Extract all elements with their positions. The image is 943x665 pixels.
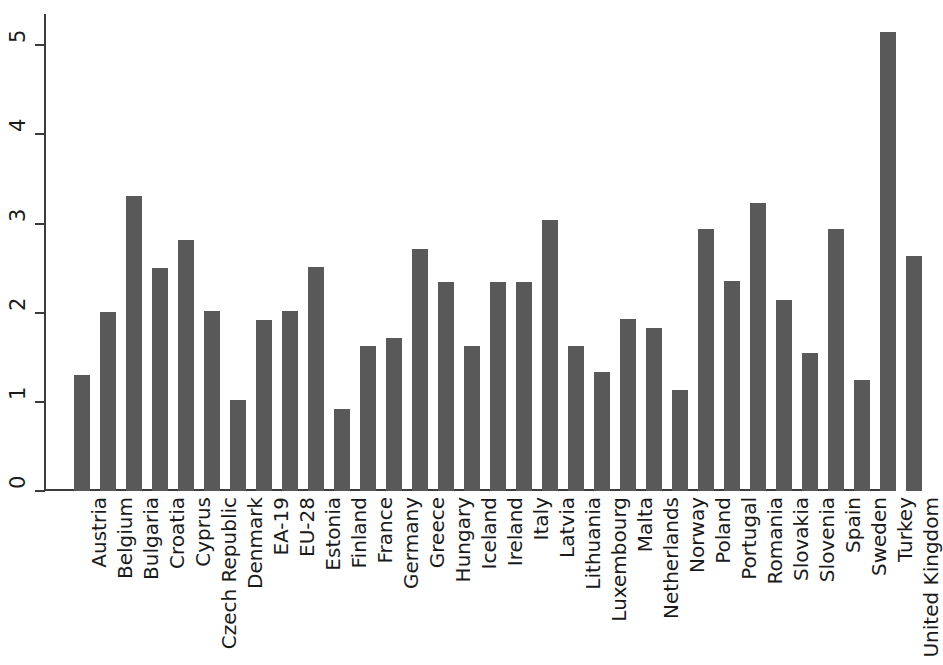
x-axis-label-slot: Portugal bbox=[719, 493, 745, 665]
y-axis-tick-label: 4 bbox=[8, 119, 29, 149]
x-axis-label-slot: Slovakia bbox=[771, 493, 797, 665]
x-axis-label-slot: Lithuania bbox=[563, 493, 589, 665]
y-axis-tick-label: 1 bbox=[8, 386, 29, 416]
bar-slot bbox=[823, 14, 849, 491]
x-axis-label-slot: Germany bbox=[381, 493, 407, 665]
bar bbox=[230, 400, 246, 491]
bar-slot bbox=[719, 14, 745, 491]
y-axis-tick-label: 0 bbox=[8, 476, 29, 506]
bar-slot bbox=[95, 14, 121, 491]
bar bbox=[438, 282, 454, 491]
bar bbox=[516, 282, 532, 491]
x-axis-label-slot: Estonia bbox=[303, 493, 329, 665]
bar bbox=[360, 346, 376, 491]
x-axis-label-slot: Czech Republic bbox=[199, 493, 225, 665]
bar-slot bbox=[745, 14, 771, 491]
y-axis-tick-label-wrap: 3 bbox=[0, 213, 33, 234]
bar-slot bbox=[901, 14, 927, 491]
bar-slot bbox=[667, 14, 693, 491]
bar bbox=[74, 375, 90, 491]
x-axis-label-slot: Italy bbox=[511, 493, 537, 665]
bar bbox=[672, 390, 688, 491]
bar-slot bbox=[173, 14, 199, 491]
y-axis-tick-label-wrap: 2 bbox=[0, 302, 33, 323]
x-axis-label-slot: Belgium bbox=[95, 493, 121, 665]
y-axis-tick-label-wrap: 5 bbox=[0, 34, 33, 55]
x-axis-label-slot: Latvia bbox=[537, 493, 563, 665]
bar bbox=[880, 32, 896, 491]
y-axis-tick-label: 5 bbox=[8, 30, 29, 60]
bar-slot bbox=[589, 14, 615, 491]
bar-slot bbox=[199, 14, 225, 491]
y-axis-tick-label-wrap: 1 bbox=[0, 391, 33, 412]
x-axis-label-slot: France bbox=[355, 493, 381, 665]
bar bbox=[464, 346, 480, 491]
bar-slot bbox=[355, 14, 381, 491]
bar-slot bbox=[615, 14, 641, 491]
x-axis-label-slot: EU-28 bbox=[277, 493, 303, 665]
y-axis-tick-label-wrap: 4 bbox=[0, 123, 33, 144]
x-axis-label-slot: Bulgaria bbox=[121, 493, 147, 665]
bar bbox=[828, 229, 844, 491]
bar bbox=[620, 319, 636, 491]
y-axis-tick-label-wrap: 0 bbox=[0, 480, 33, 501]
x-axis-label-slot: Netherlands bbox=[641, 493, 667, 665]
bar bbox=[750, 203, 766, 491]
bar-slot bbox=[875, 14, 901, 491]
x-axis-label-slot: Greece bbox=[407, 493, 433, 665]
bar bbox=[776, 300, 792, 491]
bar bbox=[594, 372, 610, 491]
bar-slot bbox=[407, 14, 433, 491]
bar-slot bbox=[459, 14, 485, 491]
x-axis-label-slot: Slovenia bbox=[797, 493, 823, 665]
x-axis-label-slot: Iceland bbox=[459, 493, 485, 665]
x-axis-label-slot: Sweden bbox=[849, 493, 875, 665]
bar bbox=[698, 229, 714, 491]
x-axis-label-slot: Hungary bbox=[433, 493, 459, 665]
bar-slot bbox=[563, 14, 589, 491]
bar-slot bbox=[537, 14, 563, 491]
bar bbox=[100, 312, 116, 491]
bar-slot bbox=[797, 14, 823, 491]
x-axis-label-slot: Poland bbox=[693, 493, 719, 665]
plot-area bbox=[44, 14, 894, 491]
x-axis-label-slot: EA-19 bbox=[251, 493, 277, 665]
bar-slot bbox=[771, 14, 797, 491]
y-axis-tick-label: 2 bbox=[8, 297, 29, 327]
bar-slot bbox=[433, 14, 459, 491]
bar bbox=[152, 268, 168, 491]
bar-slot bbox=[225, 14, 251, 491]
x-axis-label-slot: Luxembourg bbox=[589, 493, 615, 665]
bar bbox=[802, 353, 818, 491]
x-axis-labels: AustriaBelgiumBulgariaCroatiaCyprusCzech… bbox=[44, 493, 894, 665]
bar-slot bbox=[641, 14, 667, 491]
bar-slot bbox=[69, 14, 95, 491]
bar bbox=[412, 249, 428, 492]
bar-slot bbox=[381, 14, 407, 491]
bar bbox=[282, 311, 298, 491]
bar-slot bbox=[277, 14, 303, 491]
bar bbox=[256, 320, 272, 491]
bar bbox=[542, 220, 558, 491]
x-axis-label-slot: Finland bbox=[329, 493, 355, 665]
bar-slot bbox=[485, 14, 511, 491]
x-axis-label: United Kingdom bbox=[921, 497, 941, 658]
bar bbox=[126, 196, 142, 491]
x-axis-label-slot: Austria bbox=[69, 493, 95, 665]
x-axis-label-slot: Malta bbox=[615, 493, 641, 665]
x-axis-label-slot: Turkey bbox=[875, 493, 901, 665]
x-axis-label-slot: Spain bbox=[823, 493, 849, 665]
bar bbox=[308, 267, 324, 491]
x-axis-label-slot: Croatia bbox=[147, 493, 173, 665]
bar bbox=[204, 311, 220, 491]
bar bbox=[906, 256, 922, 491]
bar-slot bbox=[121, 14, 147, 491]
x-axis-label-slot: Romania bbox=[745, 493, 771, 665]
x-axis-label-slot: Norway bbox=[667, 493, 693, 665]
bar-slot bbox=[329, 14, 355, 491]
x-axis-label-slot: Ireland bbox=[485, 493, 511, 665]
bar-slot bbox=[147, 14, 173, 491]
bar bbox=[334, 409, 350, 491]
bar-slot bbox=[693, 14, 719, 491]
